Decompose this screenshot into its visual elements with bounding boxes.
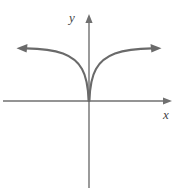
graph-figure: y x [0, 0, 182, 193]
curve-right-branch [89, 48, 152, 101]
coordinate-plane-svg [0, 0, 182, 193]
curve-right-arrowhead [151, 44, 162, 53]
x-axis-arrowhead [163, 97, 172, 104]
y-axis-label: y [69, 11, 75, 24]
curve-left-branch [26, 48, 89, 101]
y-axis-arrowhead [85, 14, 92, 23]
curve-left-arrowhead [17, 44, 28, 53]
x-axis-label: x [163, 108, 169, 121]
